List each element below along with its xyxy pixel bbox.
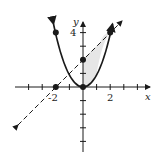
x-tick-label-neg2: -2	[48, 92, 58, 103]
point-neg2-0	[53, 84, 59, 90]
x-tick-label-2: 2	[107, 92, 113, 103]
graph-figure: y x 4 2 -2	[0, 0, 163, 162]
point-neg2-4	[53, 30, 59, 36]
x-axis-label: x	[145, 91, 151, 102]
coordinate-plane: y x 4 2 -2	[0, 0, 163, 162]
point-origin	[80, 84, 86, 90]
y-tick-label-4: 4	[70, 27, 76, 38]
point-0-2	[80, 57, 86, 63]
shaded-region-fill	[83, 33, 110, 87]
point-2-4	[107, 30, 113, 36]
y-axis-label: y	[72, 16, 79, 27]
